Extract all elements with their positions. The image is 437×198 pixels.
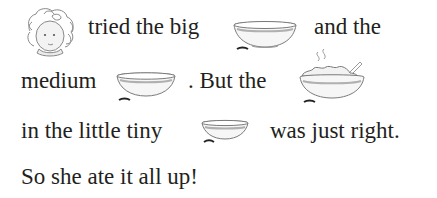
medium-bowl-icon [115, 71, 177, 105]
story-text-in-the-little-tiny: in the little tiny [21, 118, 162, 144]
goldilocks-face-icon [24, 8, 76, 58]
story-text-was-just-right: was just right. [270, 118, 400, 144]
story-text-so-she-ate-it-all-up: So she ate it all up! [21, 164, 198, 190]
porridge-bowl-icon [296, 46, 368, 106]
story-text-tried-the-big: tried the big [88, 14, 199, 40]
story-text-medium: medium [21, 68, 96, 94]
story-text-and-the: and the [314, 14, 381, 40]
story-text-but-the: . But the [188, 68, 267, 94]
big-bowl-icon [232, 19, 298, 55]
small-bowl-icon [200, 119, 250, 147]
